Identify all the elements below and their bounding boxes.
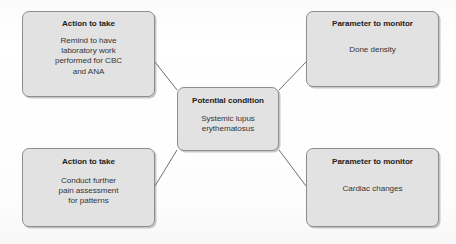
connector-top-left (155, 62, 177, 90)
node-action-labs-body-line: Remind to have (55, 36, 122, 46)
node-action-pain-body: Conduct further pain assessment for patt… (59, 176, 119, 207)
node-potential-condition: Potential condition Systemic lupus eryth… (177, 87, 279, 151)
node-action-pain-body-line: for patterns (59, 196, 119, 206)
node-param-bone-density-body: Done density (349, 45, 396, 55)
node-action-pain-body-line: pain assessment (59, 186, 119, 196)
node-action-labs-title: Action to take (62, 19, 115, 29)
node-action-pain: Action to take Conduct further pain asse… (22, 148, 155, 227)
node-action-labs-body-line: performed for CBC (55, 56, 122, 66)
node-action-pain-title: Action to take (62, 157, 115, 167)
node-potential-condition-body-line: erythematosus (201, 124, 255, 134)
node-action-labs: Action to take Remind to have laboratory… (22, 11, 155, 97)
node-action-labs-body: Remind to have laboratory work performed… (55, 36, 122, 77)
node-param-bone-density: Parameter to monitor Done density (306, 11, 439, 87)
node-action-labs-body-line: and ANA (55, 67, 122, 77)
connector-bottom-left (155, 150, 177, 186)
concept-map-diagram: Action to take Remind to have laboratory… (0, 0, 456, 244)
node-param-cardiac: Parameter to monitor Cardiac changes (306, 148, 439, 227)
node-action-labs-body-line: laboratory work (55, 46, 122, 56)
node-param-bone-density-title: Parameter to monitor (332, 19, 413, 29)
node-action-pain-body-line: Conduct further (59, 176, 119, 186)
node-potential-condition-body-line: Systemic lupus (201, 114, 255, 124)
node-potential-condition-title: Potential condition (192, 96, 264, 106)
node-param-cardiac-body: Cardiac changes (343, 184, 403, 194)
connector-top-right (279, 62, 306, 90)
connector-bottom-right (279, 150, 306, 186)
node-param-cardiac-title: Parameter to monitor (332, 157, 413, 167)
node-param-bone-density-body-line: Done density (349, 45, 396, 55)
node-potential-condition-body: Systemic lupus erythematosus (201, 114, 255, 134)
node-param-cardiac-body-line: Cardiac changes (343, 184, 403, 194)
